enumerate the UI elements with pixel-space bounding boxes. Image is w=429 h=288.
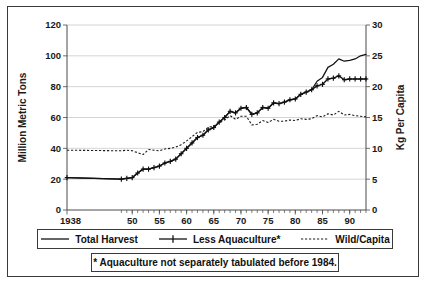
legend-swatch-plus-line <box>158 234 188 244</box>
x-tick-label: 85 <box>317 215 328 226</box>
y2-tick-label: 15 <box>372 112 383 123</box>
y2-tick-label: 30 <box>372 19 383 30</box>
legend-label-total-harvest: Total Harvest <box>75 234 138 245</box>
chart-footnote-box: * Aquaculture not separately tabulated b… <box>91 253 339 272</box>
legend-item-total-harvest: Total Harvest <box>40 234 138 245</box>
legend-label-less-aquaculture: Less Aquaculture* <box>193 234 280 245</box>
legend-swatch-dotted-line <box>300 234 330 244</box>
y2-tick-label: 0 <box>372 204 377 215</box>
x-tick-label: 75 <box>263 215 274 226</box>
legend-item-wild-capita: Wild/Capita <box>300 234 389 245</box>
y-tick-label: 120 <box>45 19 61 30</box>
tick-labels: 0204060801001200510152025301938505560657… <box>45 19 383 225</box>
x-tick-label: 80 <box>290 215 301 226</box>
y-tick-label: 20 <box>50 174 61 185</box>
legend-item-less-aquaculture: Less Aquaculture* <box>158 234 280 245</box>
right-axis-title: Kg Per Capita <box>395 84 406 150</box>
y2-tick-label: 10 <box>372 143 383 154</box>
legend-label-wild-capita: Wild/Capita <box>335 234 389 245</box>
legend-swatch-solid-line <box>40 234 70 244</box>
y-tick-label: 40 <box>50 143 61 154</box>
series-markers-less-aquaculture <box>65 73 369 181</box>
x-tick-label: 90 <box>344 215 355 226</box>
y2-tick-label: 5 <box>372 174 378 185</box>
series-line-less-aquaculture <box>67 76 366 179</box>
chart-figure: 0204060801001200510152025301938505560657… <box>0 0 429 288</box>
y-tick-label: 100 <box>45 50 61 61</box>
y-tick-label: 80 <box>50 81 61 92</box>
grid-lines <box>67 25 366 179</box>
y-tick-label: 60 <box>50 112 61 123</box>
x-tick-label: 1938 <box>60 215 81 226</box>
tick-marks <box>63 25 370 215</box>
y2-tick-label: 25 <box>372 50 383 61</box>
x-tick-label: 65 <box>208 215 219 226</box>
x-tick-label: 70 <box>236 215 247 226</box>
left-axis-title: Million Metric Tons <box>17 72 28 162</box>
data-series <box>65 54 369 181</box>
x-tick-label: 60 <box>181 215 192 226</box>
x-tick-label: 50 <box>127 215 138 226</box>
y2-tick-label: 20 <box>372 81 383 92</box>
x-tick-label: 55 <box>154 215 165 226</box>
chart-legend: Total Harvest Less Aquaculture* Wild/Cap… <box>37 229 393 249</box>
chart-footnote-text: * Aquaculture not separately tabulated b… <box>93 257 337 268</box>
